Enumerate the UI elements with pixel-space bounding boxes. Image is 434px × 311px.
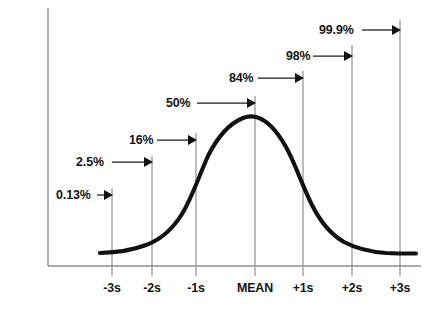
annotation-label-2-5: 2.5% bbox=[76, 155, 104, 169]
annotation-label-98: 98% bbox=[286, 49, 311, 63]
tick-label-plus-2s: +2s bbox=[342, 281, 363, 295]
chart-canvas: 0.13% 2.5% 16% 50% 84% 98% 99.9% -3s -2s… bbox=[0, 0, 434, 311]
tick-label-plus-3s: +3s bbox=[390, 281, 411, 295]
tick-label-minus-1s: -1s bbox=[187, 281, 205, 295]
annotation-label-16: 16% bbox=[129, 133, 154, 147]
tick-label-minus-3s: -3s bbox=[103, 281, 121, 295]
annotation-label-50: 50% bbox=[166, 96, 191, 110]
normal-distribution-chart: 0.13% 2.5% 16% 50% 84% 98% 99.9% -3s -2s… bbox=[0, 0, 434, 311]
annotation-label-0-13: 0.13% bbox=[56, 188, 91, 202]
annotation-label-84: 84% bbox=[229, 71, 254, 85]
annotation-label-99-9: 99.9% bbox=[319, 23, 354, 37]
tick-label-minus-2s: -2s bbox=[143, 281, 161, 295]
tick-label-mean: MEAN bbox=[237, 281, 273, 295]
tick-label-plus-1s: +1s bbox=[293, 281, 314, 295]
